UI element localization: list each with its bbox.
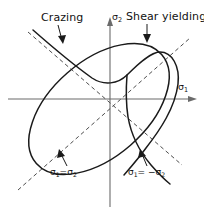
crazing-label: Crazing: [41, 12, 83, 23]
sigma-subscript: 1: [184, 86, 188, 94]
sigma-glyph: σ: [50, 167, 56, 177]
crazing-leader: [58, 25, 66, 44]
sigma-glyph: σ: [128, 167, 134, 177]
sigma-subscript: 2: [161, 171, 165, 178]
shear-yielding-leader: [143, 24, 151, 43]
vertical-axis: [107, 17, 113, 207]
vertical-axis-label: σ2: [112, 12, 122, 22]
sigma-subscript: 2: [118, 16, 122, 24]
shear-yielding-label: Shear yielding: [126, 11, 204, 22]
sigma1-equals-sigma2-label: σ1=σ2: [50, 168, 77, 177]
crazing-curve: [33, 30, 178, 184]
horizontal-axis-label: σ1: [178, 82, 188, 92]
sigma-subscript: 1: [134, 171, 138, 178]
sigma-subscript: 2: [73, 171, 77, 178]
sigma1-equals-minus-sigma2-label: σ1= −σ2: [128, 168, 165, 177]
stress-envelope-figure: Crazing Shear yielding σ2 σ1 σ1=σ2 σ1= −…: [0, 0, 204, 215]
equals-glyph: = −: [138, 167, 156, 177]
sigma-subscript: 1: [56, 171, 60, 178]
